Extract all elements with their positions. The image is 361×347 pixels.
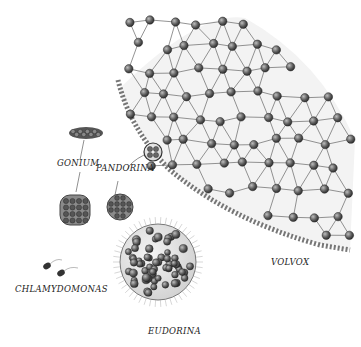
pandorina-sphere-cell xyxy=(121,214,126,219)
label-eudorina: EUDORINA xyxy=(148,326,201,336)
volvox-cell xyxy=(329,164,337,172)
eudorina-cell xyxy=(186,263,193,270)
volvox-cell xyxy=(310,161,318,169)
volvox-cell xyxy=(145,69,153,77)
eudorina-flagellum xyxy=(114,271,121,273)
eudorina-flagellum xyxy=(116,245,123,248)
volvox-cell xyxy=(334,212,342,220)
eudorina-flagellum xyxy=(119,240,125,243)
chlamydomonas-cells xyxy=(42,260,78,278)
eudorina-flagellum xyxy=(113,256,120,257)
eudorina-flagellum xyxy=(165,299,166,306)
pandorina-cell xyxy=(147,146,152,151)
volvox-cell xyxy=(159,90,167,98)
eudorina-flagellum xyxy=(196,267,203,268)
eudorina-cell xyxy=(164,238,171,245)
volvox-cell xyxy=(204,185,212,193)
eudorina-flagellum xyxy=(139,296,142,302)
gonium-cell xyxy=(82,132,86,136)
volvox-cell xyxy=(333,114,341,122)
eudorina-cell xyxy=(172,230,180,238)
volvox-cell xyxy=(209,39,217,47)
volvox-cell xyxy=(171,18,179,26)
gonium-leader-line xyxy=(80,140,84,160)
gonium-cell xyxy=(92,129,96,133)
volvox-cell xyxy=(179,135,187,143)
eudorina-flagellum xyxy=(125,288,130,293)
volvox-cell xyxy=(227,88,235,96)
eudorina-flagellum xyxy=(122,284,128,288)
eudorina-flagellum xyxy=(193,245,200,248)
eudorina-flagellum xyxy=(125,231,130,236)
eudorina-cell xyxy=(130,280,138,288)
eudorina-colony xyxy=(113,217,203,307)
eudorina-cell xyxy=(171,260,177,266)
volvox-cell xyxy=(265,158,273,166)
eudorina-flagellum xyxy=(195,251,202,253)
volvox-cell xyxy=(286,63,294,71)
volvox-cell xyxy=(320,185,328,193)
volvox-cell xyxy=(205,89,213,97)
volvox-cell xyxy=(170,113,178,121)
pandorina-sphere-cell xyxy=(127,208,132,213)
pandorina-sphere xyxy=(107,194,133,220)
eudorina-cell xyxy=(145,245,153,253)
eudorina-flagellum xyxy=(119,280,125,283)
volvox-cell xyxy=(254,87,262,95)
eudorina-flagellum xyxy=(174,221,177,227)
volvox-cell xyxy=(310,214,318,222)
eudorina-cell xyxy=(144,254,151,261)
volvox-cell xyxy=(273,92,281,100)
volvox-cell xyxy=(345,231,353,239)
eudorina-cell xyxy=(162,281,169,288)
eudorina-flagellum xyxy=(186,288,191,293)
eudorina-flagellum xyxy=(139,221,142,227)
label-chlamydomonas: CHLAMYDOMONAS xyxy=(15,284,108,294)
eudorina-flagellum xyxy=(189,284,195,288)
volvox-cell xyxy=(225,189,233,197)
eudorina-cell xyxy=(145,289,152,296)
eudorina-flagellum xyxy=(191,280,197,283)
volvox-cell xyxy=(134,38,142,46)
volvox-cell xyxy=(253,40,261,48)
gonium-plate-cell xyxy=(76,198,81,203)
volvox-cell xyxy=(286,159,294,167)
pandorina-sphere-cell xyxy=(121,202,126,207)
volvox-cell xyxy=(248,182,256,190)
volvox-cell xyxy=(216,117,224,125)
volvox-cell xyxy=(163,46,171,54)
gonium-plate-cell xyxy=(63,218,68,223)
eudorina-cell xyxy=(179,244,187,252)
eudorina-flagellum xyxy=(150,299,151,306)
eudorina-flagellum xyxy=(144,219,146,226)
eudorina-flagellum xyxy=(129,291,133,296)
eudorina-flagellum xyxy=(174,296,177,302)
algae-illustration xyxy=(0,0,361,347)
eudorina-flagellum xyxy=(144,298,146,305)
gonium-plate-cell xyxy=(76,218,81,223)
eudorina-cell xyxy=(171,280,179,288)
volvox-cell xyxy=(324,93,332,101)
gonium-plate-cell xyxy=(70,198,75,203)
volvox-cell xyxy=(284,118,292,126)
volvox-cell xyxy=(219,65,227,73)
eudorina-cell xyxy=(151,284,157,290)
gonium-cell xyxy=(78,129,82,133)
volvox-cell xyxy=(301,94,309,102)
pandorina-sphere-cell xyxy=(127,202,132,207)
gonium-plate-cell xyxy=(63,198,68,203)
volvox-cell xyxy=(237,113,245,121)
gonium-plate-cell xyxy=(76,205,81,210)
eudorina-cell xyxy=(164,255,171,262)
pandorina-sphere-cell xyxy=(115,196,120,201)
gonium-cell xyxy=(74,132,78,136)
volvox-cell xyxy=(168,161,176,169)
pandorina-sphere-cell xyxy=(109,202,114,207)
eudorina-cell xyxy=(125,249,131,255)
gonium-plate xyxy=(60,195,90,225)
volvox-cell xyxy=(250,140,258,148)
volvox-cell xyxy=(322,231,330,239)
volvox-cell xyxy=(219,17,227,25)
volvox-cell xyxy=(170,69,178,77)
volvox-cell xyxy=(196,116,204,124)
